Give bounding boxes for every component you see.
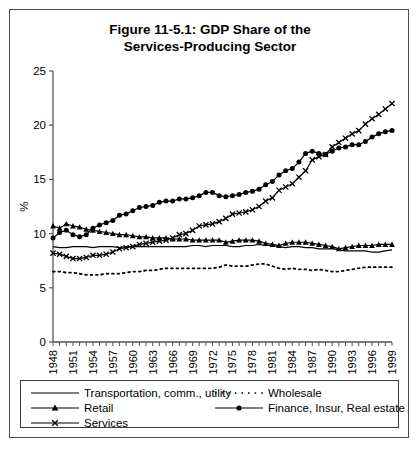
chart-legend: Transportation, comm., utility Wholesale… [20,380,399,428]
legend-swatch-services [29,417,81,429]
svg-text:1969: 1969 [187,350,199,374]
legend-swatch-finance [213,402,265,414]
svg-text:1978: 1978 [246,350,258,374]
legend-swatch-retail [29,402,81,414]
legend-label-finance: Finance, Insur, Real estate [268,402,405,414]
legend-item-services: Services [29,416,128,431]
svg-text:1963: 1963 [147,350,159,374]
legend-item-transportation: Transportation, comm., utility [29,386,231,401]
svg-text:10: 10 [33,228,46,240]
legend-swatch-wholesale [213,387,265,399]
svg-text:1966: 1966 [167,350,179,374]
svg-text:1951: 1951 [67,350,79,374]
svg-text:20: 20 [33,119,46,131]
svg-text:1990: 1990 [326,350,338,374]
svg-text:1975: 1975 [226,350,238,374]
plot-area: 0510152025%19481951195419571960196319661… [10,10,410,439]
legend-item-finance: Finance, Insur, Real estate [213,401,405,416]
line-chart: 0510152025%19481951195419571960196319661… [10,10,410,439]
svg-text:1960: 1960 [127,350,139,374]
svg-text:1987: 1987 [306,350,318,374]
svg-text:1957: 1957 [107,350,119,374]
svg-text:%: % [18,201,30,211]
svg-text:1996: 1996 [366,350,378,374]
svg-text:15: 15 [33,173,46,185]
svg-text:1972: 1972 [207,350,219,374]
svg-text:1948: 1948 [47,350,59,374]
svg-text:1993: 1993 [346,350,358,374]
legend-swatch-transportation [29,387,81,399]
svg-text:5: 5 [40,282,46,294]
svg-text:1954: 1954 [87,350,99,374]
svg-text:1999: 1999 [386,350,398,374]
legend-label-retail: Retail [84,402,113,414]
svg-text:0: 0 [40,336,46,348]
legend-label-wholesale: Wholesale [268,387,322,399]
legend-label-services: Services [84,417,128,429]
legend-item-wholesale: Wholesale [213,386,322,401]
figure-frame: Figure 11-5.1: GDP Share of the Services… [9,9,409,438]
svg-text:25: 25 [33,65,46,77]
legend-label-transportation: Transportation, comm., utility [84,387,231,399]
svg-text:1981: 1981 [266,350,278,374]
legend-item-retail: Retail [29,401,113,416]
svg-text:1984: 1984 [286,350,298,374]
